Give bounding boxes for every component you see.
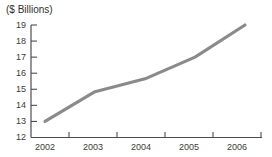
x-axis-ticks <box>69 132 261 138</box>
y-tick-label-16: 16 <box>10 69 26 78</box>
x-tick-label-2002: 2002 <box>28 143 62 152</box>
x-tick-label-2004: 2004 <box>124 143 158 152</box>
y-tick-label-13: 13 <box>10 117 26 126</box>
y-axis-ticks <box>31 25 37 121</box>
data-series-line <box>45 25 245 121</box>
x-tick-label-2003: 2003 <box>76 143 110 152</box>
x-tick-label-2005: 2005 <box>172 143 206 152</box>
axis-lines <box>31 25 262 138</box>
y-tick-label-19: 19 <box>10 21 26 30</box>
chart-plot-area <box>0 0 272 157</box>
y-tick-label-18: 18 <box>10 37 26 46</box>
y-tick-label-17: 17 <box>10 53 26 62</box>
y-tick-label-14: 14 <box>10 101 26 110</box>
x-tick-label-2006: 2006 <box>220 143 254 152</box>
y-tick-label-12: 12 <box>10 133 26 142</box>
line-chart: ($ Billions) 19 18 17 16 15 14 13 12 200 <box>0 0 272 157</box>
y-tick-label-15: 15 <box>10 85 26 94</box>
